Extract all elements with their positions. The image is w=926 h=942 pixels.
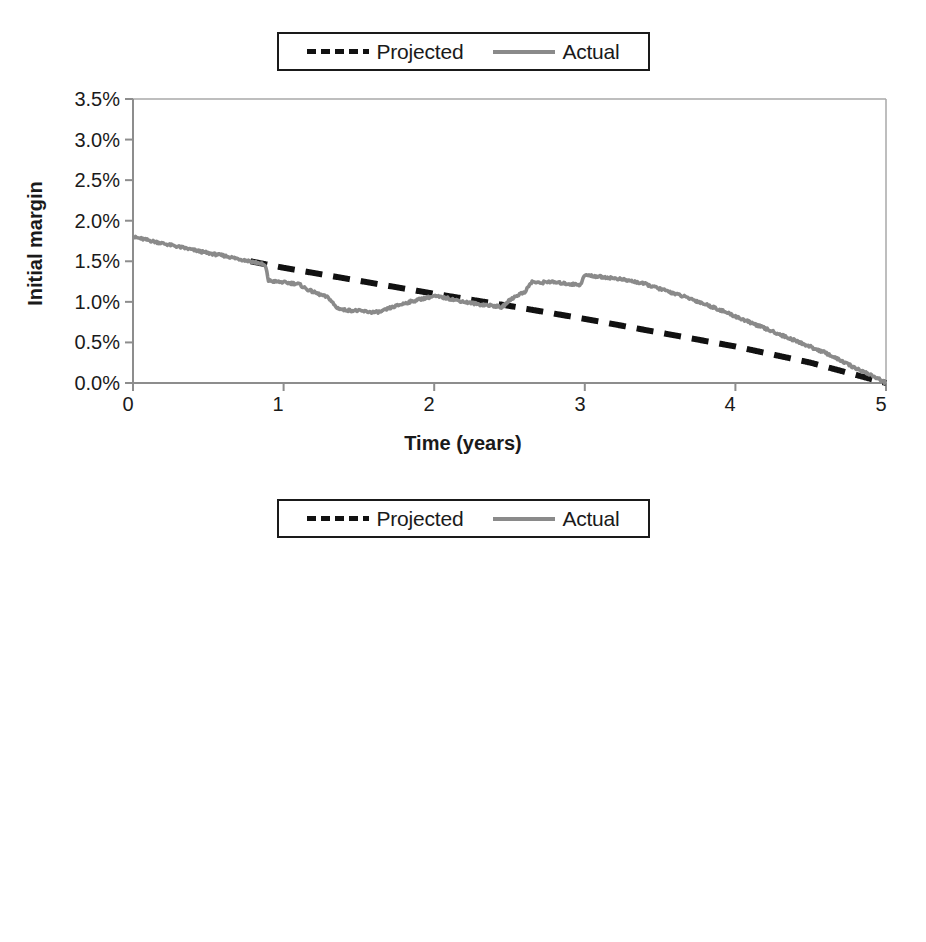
chart-bottom: Projected Actual Initial margin 3.5% 3.0… <box>0 470 926 942</box>
series-line-actual <box>133 236 886 383</box>
plot-area-top <box>0 0 926 470</box>
series-line-projected <box>250 261 886 383</box>
plot-area-bottom <box>0 470 926 942</box>
chart-top: Projected Actual Initial margin 3.5% 3.0… <box>0 0 926 470</box>
figure-page: Projected Actual Initial margin 3.5% 3.0… <box>0 0 926 942</box>
